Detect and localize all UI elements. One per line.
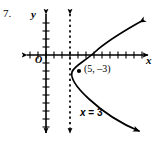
directrix-equation-label: x = 3 [80, 108, 103, 118]
origin-label: O [35, 55, 42, 65]
problem-number: 7. [3, 8, 11, 19]
x-axis-label: x [146, 55, 152, 66]
focus-point-label: (5, –3) [84, 64, 111, 74]
coordinate-plane-graphic [0, 0, 157, 141]
parabola-figure: 7. y x O (5, –3) x = 3 [0, 0, 157, 141]
y-axis-label: y [31, 9, 36, 20]
y-axis [43, 14, 50, 133]
directrix-equation-rest: = 3 [86, 107, 103, 118]
focus-point-marker [77, 69, 81, 73]
